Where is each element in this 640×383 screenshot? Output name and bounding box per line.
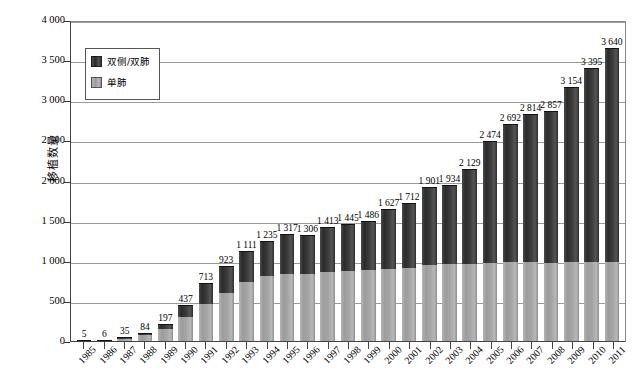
x-axis-label-slot: 1997 <box>318 349 338 383</box>
x-axis-tickmark <box>593 342 594 349</box>
x-axis-tickmark <box>450 342 451 349</box>
bar-value-label: 1 445 <box>337 213 358 223</box>
x-axis-label-slot: 1998 <box>338 349 358 383</box>
stacked-bar[interactable]: 437 <box>178 305 193 341</box>
x-axis-tickmark <box>165 342 166 349</box>
bar-segment-single-lung <box>239 282 254 341</box>
bar-value-label: 3 154 <box>561 76 582 86</box>
stacked-bar[interactable]: 1 901 <box>422 187 437 341</box>
bar-value-label: 1 306 <box>297 224 318 234</box>
bar-slot: 1 901 <box>419 22 439 341</box>
x-axis-label-slot: 2000 <box>379 349 399 383</box>
stacked-bar[interactable]: 6 <box>97 340 112 341</box>
stacked-bar[interactable]: 2 692 <box>503 124 518 341</box>
x-axis-tickmark <box>430 342 431 349</box>
bar-value-label: 197 <box>158 313 172 323</box>
stacked-bar[interactable]: 1 235 <box>260 241 275 341</box>
bar-segment-double-lung <box>564 87 579 262</box>
bar-value-label: 5 <box>82 329 87 339</box>
bar-value-label: 713 <box>199 272 213 282</box>
bar-value-label: 84 <box>140 322 150 332</box>
x-axis-label-slot: 1999 <box>358 349 378 383</box>
bar-segment-single-lung <box>584 262 599 341</box>
legend-swatch-single-lung-icon <box>91 77 102 88</box>
stacked-bar[interactable]: 3 395 <box>584 68 599 341</box>
y-axis-tick-label: 2 000 <box>17 176 65 186</box>
bar-segment-single-lung <box>503 262 518 341</box>
bar-value-label: 2 814 <box>520 103 541 113</box>
stacked-bar[interactable]: 2 129 <box>462 169 477 341</box>
stacked-bar[interactable]: 1 712 <box>402 203 417 341</box>
x-axis-label-slot: 2003 <box>440 349 460 383</box>
stacked-bar[interactable]: 2 474 <box>483 141 498 341</box>
stacked-bar[interactable]: 2 857 <box>544 111 559 341</box>
stacked-bar[interactable]: 35 <box>117 337 132 341</box>
stacked-bar[interactable]: 5 <box>77 340 92 341</box>
bar-segment-single-lung <box>320 272 335 341</box>
bar-value-label: 6 <box>102 329 107 339</box>
stacked-bar[interactable]: 197 <box>158 324 173 341</box>
bar-segment-double-lung <box>483 141 498 262</box>
y-axis-title: 移植数量 <box>44 108 60 208</box>
bar-slot: 1 235 <box>257 22 277 341</box>
bar-segment-single-lung <box>361 270 376 341</box>
bar-segment-single-lung <box>260 276 275 341</box>
stacked-bar[interactable]: 3 154 <box>564 87 579 341</box>
x-axis-label-slot: 1992 <box>216 349 236 383</box>
x-axis-label-slot: 1996 <box>297 349 317 383</box>
bar-slot: 1 627 <box>378 22 398 341</box>
x-axis-label-slot: 2007 <box>521 349 541 383</box>
bar-segment-single-lung <box>402 268 417 341</box>
bar-value-label: 1 901 <box>419 176 440 186</box>
x-axis-label-slot: 2006 <box>501 349 521 383</box>
bar-slot: 1 306 <box>297 22 317 341</box>
x-axis-label-slot: 1995 <box>277 349 297 383</box>
y-axis-tick-label: 500 <box>17 296 65 306</box>
stacked-bar[interactable]: 1 445 <box>341 224 356 341</box>
y-axis-tick-label: 1 000 <box>17 256 65 266</box>
stacked-bar[interactable]: 1 486 <box>361 221 376 341</box>
stacked-bar[interactable]: 1 934 <box>442 185 457 341</box>
bar-value-label: 1 413 <box>317 216 338 226</box>
bar-slot: 713 <box>196 22 216 341</box>
bar-slot: 437 <box>175 22 195 341</box>
x-axis-tickmark <box>328 342 329 349</box>
bar-segment-single-lung <box>462 264 477 341</box>
x-axis-tickmark <box>348 342 349 349</box>
bar-value-label: 2 857 <box>540 100 561 110</box>
bar-segment-double-lung <box>178 305 193 317</box>
bar-slot: 3 640 <box>602 22 622 341</box>
stacked-bar[interactable]: 1 317 <box>280 234 295 341</box>
x-axis-label-slot: 2008 <box>542 349 562 383</box>
bar-slot: 1 445 <box>338 22 358 341</box>
stacked-bar[interactable]: 1 306 <box>300 235 315 341</box>
stacked-bar[interactable]: 1 111 <box>239 251 254 341</box>
bar-segment-single-lung <box>442 264 457 341</box>
stacked-bar[interactable]: 923 <box>219 266 234 341</box>
chart-legend: 双侧/双肺 单肺 <box>85 48 160 100</box>
stacked-bar[interactable]: 1 413 <box>320 227 335 341</box>
bar-segment-double-lung <box>381 209 396 268</box>
x-axis-tickmark <box>104 342 105 349</box>
bar-segment-single-lung <box>280 274 295 341</box>
y-axis-tick-label: 1 500 <box>17 216 65 226</box>
bar-segment-double-lung <box>361 221 376 271</box>
bar-segment-double-lung <box>320 227 335 272</box>
x-axis-label-slot: 2002 <box>419 349 439 383</box>
bar-segment-single-lung <box>605 262 620 341</box>
stacked-bar[interactable]: 713 <box>199 283 214 341</box>
bar-slot: 2 129 <box>460 22 480 341</box>
legend-swatch-double-lung-icon <box>91 56 102 67</box>
stacked-bar[interactable]: 84 <box>138 333 153 341</box>
x-axis-tickmark <box>185 342 186 349</box>
bar-value-label: 437 <box>179 294 193 304</box>
bar-segment-single-lung <box>138 335 153 341</box>
stacked-bar[interactable]: 3 640 <box>605 48 620 341</box>
bar-value-label: 3 395 <box>581 57 602 67</box>
stacked-bar[interactable]: 1 627 <box>381 209 396 341</box>
bar-segment-single-lung <box>523 262 538 341</box>
stacked-bar[interactable]: 2 814 <box>523 114 538 341</box>
y-axis-tick-label: 4 000 <box>17 15 65 25</box>
bar-slot: 1 712 <box>399 22 419 341</box>
bar-value-label: 1 317 <box>276 223 297 233</box>
